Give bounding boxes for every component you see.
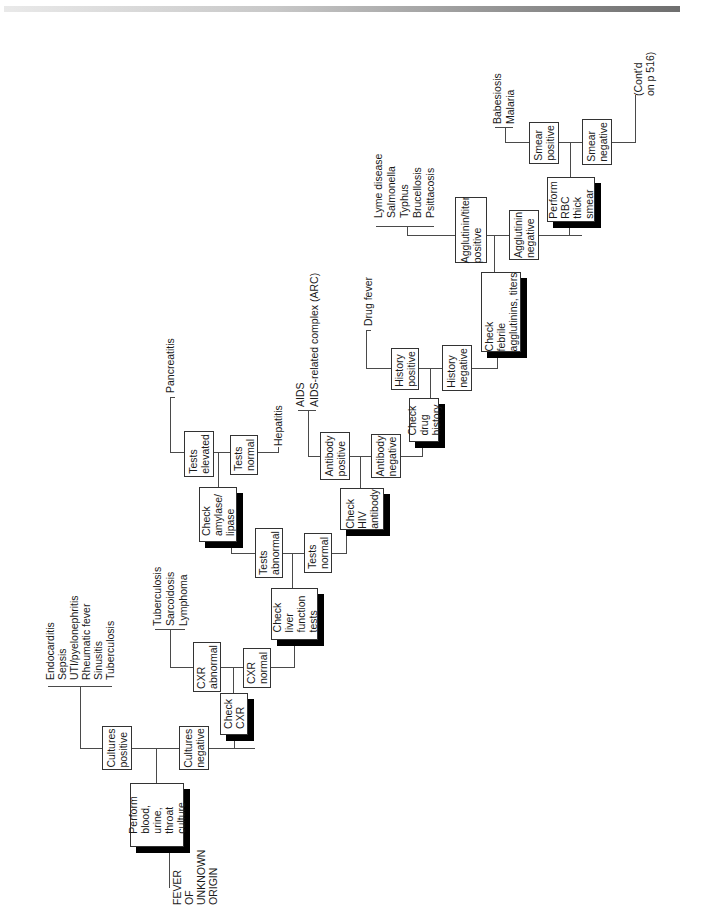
connector bbox=[401, 456, 423, 457]
outcome-label: AIDS-related complex (ARC) bbox=[308, 273, 320, 407]
node-perform-rbc: Perform RBC thick smear bbox=[547, 177, 595, 222]
connector bbox=[495, 127, 513, 128]
connector bbox=[170, 629, 171, 667]
node-text: Perform RBC thick smear bbox=[547, 181, 595, 218]
connector bbox=[366, 330, 371, 331]
node-smear-positive: Smear positive bbox=[529, 122, 559, 164]
outcome-label: Hepatitis bbox=[272, 405, 284, 446]
continuation-label: (Cont'd on p 516) bbox=[632, 52, 656, 96]
node-check-lft: Check liver function tests bbox=[271, 588, 318, 640]
node-text: CXR normal bbox=[245, 652, 269, 684]
connector bbox=[155, 629, 185, 630]
node-text: Tests elevated bbox=[187, 434, 211, 474]
outcome-label: Pancreatitis bbox=[164, 338, 176, 393]
node-tests-normal-amylase: Tests normal bbox=[230, 435, 258, 475]
connector bbox=[430, 368, 431, 398]
node-cxr-abnormal: CXR abnormal bbox=[193, 642, 221, 692]
connector bbox=[569, 222, 570, 236]
node-text: Smear positive bbox=[532, 125, 556, 161]
connector bbox=[472, 368, 498, 369]
connector bbox=[346, 536, 347, 554]
connector bbox=[635, 95, 636, 143]
node-history-negative: History negative bbox=[442, 345, 472, 391]
node-text: Check amylase/ lipase bbox=[200, 493, 236, 535]
outcome-label: Babesiosis bbox=[491, 73, 503, 124]
node-cxr-normal: CXR normal bbox=[243, 648, 271, 688]
connector bbox=[332, 553, 347, 554]
node-text: History negative bbox=[445, 348, 469, 388]
outcome-label: Endocarditis bbox=[44, 622, 56, 680]
outcome-label: Typhus bbox=[398, 184, 410, 218]
outcome-label: Lyme disease bbox=[372, 154, 384, 218]
outcome-label: Psittacosis bbox=[424, 168, 436, 218]
node-text: Check drug history bbox=[406, 405, 442, 436]
connector bbox=[156, 748, 157, 783]
connector bbox=[258, 452, 278, 453]
node-text: Tests abnormal bbox=[257, 531, 281, 575]
connector bbox=[539, 235, 569, 236]
connector bbox=[234, 735, 235, 749]
node-smear-negative: Smear negative bbox=[582, 119, 612, 165]
connector bbox=[612, 142, 636, 143]
connector bbox=[505, 127, 506, 142]
connector bbox=[48, 686, 112, 687]
page-header-bar bbox=[4, 6, 680, 12]
node-text: Cultures negative bbox=[182, 728, 206, 768]
connector bbox=[366, 330, 367, 368]
node-check-febrile: Check febrile agglutinins, titers bbox=[481, 272, 521, 352]
node-antibody-positive: Antibody positive bbox=[320, 432, 350, 480]
connector bbox=[497, 357, 498, 369]
connector bbox=[170, 452, 184, 453]
node-text: Check CXR bbox=[222, 699, 246, 729]
node-text: Agglutinin negative bbox=[512, 212, 536, 258]
outcome-label: Drug fever bbox=[362, 277, 374, 326]
connector bbox=[170, 397, 171, 452]
node-text: Cultures positive bbox=[105, 728, 129, 767]
node-text: Check liver function tests bbox=[271, 596, 319, 633]
connector bbox=[80, 686, 81, 748]
node-agglutinin-negative: Agglutinin negative bbox=[509, 210, 539, 260]
connector bbox=[376, 226, 434, 227]
node-tests-elevated: Tests elevated bbox=[184, 431, 214, 477]
outcome-label: Brucellosis bbox=[411, 167, 423, 218]
node-tests-normal-lft: Tests normal bbox=[304, 533, 332, 573]
node-tests-abnormal: Tests abnormal bbox=[255, 528, 283, 578]
connector bbox=[292, 553, 293, 588]
connector bbox=[233, 667, 234, 693]
node-text: Perform blood, urine, throat culture bbox=[127, 796, 187, 833]
connector bbox=[231, 542, 232, 554]
node-agglutinin-positive: Agglutinin/titer positive bbox=[455, 197, 487, 263]
node-text: Tests normal bbox=[306, 537, 330, 569]
connector bbox=[298, 410, 316, 411]
connector bbox=[218, 452, 219, 487]
node-text: Agglutinin/titer positive bbox=[459, 197, 483, 264]
node-text: History positive bbox=[393, 351, 417, 387]
connector bbox=[407, 226, 408, 236]
outcome-label: Tuberculosis bbox=[104, 621, 116, 680]
node-check-amylase: Check amylase/ lipase bbox=[199, 487, 237, 542]
node-text: Check febrile agglutinins, titers bbox=[483, 273, 519, 352]
connector bbox=[422, 442, 423, 456]
node-text: Smear negative bbox=[585, 122, 609, 162]
outcome-label: Sepsis bbox=[56, 648, 68, 680]
connector bbox=[271, 667, 295, 668]
connector bbox=[169, 848, 170, 888]
outcome-label: Sinusitis bbox=[92, 641, 104, 680]
connector bbox=[278, 447, 279, 453]
outcome-label: Malaria bbox=[504, 90, 516, 124]
node-history-positive: History positive bbox=[391, 348, 419, 390]
connector bbox=[294, 640, 295, 668]
node-text: Tests normal bbox=[232, 439, 256, 471]
connector bbox=[570, 142, 571, 177]
node-text: CXR abnormal bbox=[195, 645, 219, 689]
node-cultures-negative: Cultures negative bbox=[179, 726, 209, 770]
connector bbox=[170, 397, 175, 398]
outcome-label: Rheumatic fever bbox=[80, 604, 92, 680]
node-text: Antibody positive bbox=[323, 436, 347, 477]
node-check-hiv: Check HIV antibody bbox=[340, 488, 384, 530]
outcome-label: Lymphoma bbox=[177, 574, 189, 626]
outcome-label: AIDS bbox=[294, 382, 306, 407]
connector bbox=[360, 456, 361, 488]
node-antibody-negative: Antibody negative bbox=[371, 434, 401, 478]
connector bbox=[308, 410, 309, 456]
